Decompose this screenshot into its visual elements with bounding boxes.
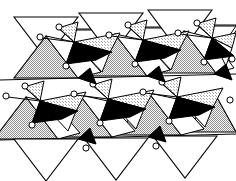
atom-circle xyxy=(106,32,112,38)
atom-circle xyxy=(194,20,200,26)
crystal-structure-figure xyxy=(0,0,236,181)
atom-circle xyxy=(29,122,35,128)
atom-circle xyxy=(71,91,77,97)
structure-canvas xyxy=(0,0,236,181)
atom-circle xyxy=(153,143,159,149)
bottom-row-white-triangles xyxy=(14,136,217,181)
atom-circle xyxy=(229,56,235,62)
atom-circle xyxy=(132,61,138,67)
atom-circle xyxy=(175,30,181,36)
atom-circle xyxy=(22,83,28,89)
atom-circle xyxy=(83,145,89,151)
atom-circle xyxy=(37,34,43,40)
atom-circle xyxy=(97,120,103,126)
atom-circle xyxy=(3,93,9,99)
atom-circle xyxy=(56,24,62,30)
atom-circle xyxy=(227,97,233,103)
atom-circle xyxy=(63,63,69,69)
atom-circle xyxy=(140,89,146,95)
atom-circle xyxy=(201,59,207,65)
atom-circle xyxy=(166,118,172,124)
atom-circle xyxy=(125,22,131,28)
